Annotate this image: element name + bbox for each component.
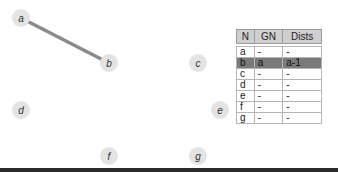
table-row: f-- bbox=[237, 102, 322, 113]
header-dists: Dists bbox=[283, 30, 322, 44]
node-d[interactable]: d bbox=[12, 101, 30, 119]
header-n: N bbox=[237, 30, 255, 44]
cell-dists: - bbox=[283, 69, 322, 80]
header-gn: GN bbox=[254, 30, 282, 44]
cell-gn: - bbox=[254, 47, 282, 58]
distance-table: N GN Dists a-- baa-1 c-- d-- e-- f-- g-- bbox=[236, 29, 322, 124]
cell-gn: - bbox=[254, 80, 282, 91]
bottom-divider bbox=[0, 168, 338, 172]
table-row: c-- bbox=[237, 69, 322, 80]
cell-dists: - bbox=[283, 80, 322, 91]
table-row-highlighted: baa-1 bbox=[237, 58, 322, 69]
cell-gn: - bbox=[254, 91, 282, 102]
cell-gn: - bbox=[254, 102, 282, 113]
node-g[interactable]: g bbox=[189, 147, 207, 165]
cell-n: g bbox=[237, 113, 255, 124]
cell-n: f bbox=[237, 102, 255, 113]
table-row: d-- bbox=[237, 80, 322, 91]
cell-gn: a bbox=[254, 58, 282, 69]
node-e[interactable]: e bbox=[211, 101, 229, 119]
table-row: g-- bbox=[237, 113, 322, 124]
cell-dists: - bbox=[283, 102, 322, 113]
cell-dists: - bbox=[283, 47, 322, 58]
cell-gn: - bbox=[254, 113, 282, 124]
node-c[interactable]: c bbox=[189, 54, 207, 72]
cell-n: e bbox=[237, 91, 255, 102]
node-b[interactable]: b bbox=[100, 54, 118, 72]
table-row: e-- bbox=[237, 91, 322, 102]
cell-dists: - bbox=[283, 113, 322, 124]
node-a[interactable]: a bbox=[12, 9, 30, 27]
cell-n: a bbox=[237, 47, 255, 58]
node-f[interactable]: f bbox=[100, 147, 118, 165]
cell-n: d bbox=[237, 80, 255, 91]
cell-n: b bbox=[237, 58, 255, 69]
cell-dists: a-1 bbox=[283, 58, 322, 69]
cell-dists: - bbox=[283, 91, 322, 102]
table-row: a-- bbox=[237, 47, 322, 58]
table-header-row: N GN Dists bbox=[237, 30, 322, 44]
cell-gn: - bbox=[254, 69, 282, 80]
cell-n: c bbox=[237, 69, 255, 80]
